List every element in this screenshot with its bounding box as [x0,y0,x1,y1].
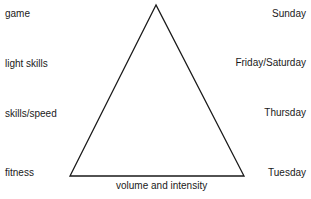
left-label-fitness: fitness [5,167,34,179]
left-label-game: game [5,8,30,20]
right-label-sunday: Sunday [272,8,306,20]
right-label-thursday: Thursday [264,107,306,119]
right-label-tuesday: Tuesday [268,167,306,179]
pyramid-triangle [0,0,311,199]
left-label-light-skills: light skills [5,58,48,70]
right-label-friday-saturday: Friday/Saturday [235,57,306,69]
base-label-volume-intensity: volume and intensity [116,180,207,192]
left-label-skills-speed: skills/speed [5,108,57,120]
